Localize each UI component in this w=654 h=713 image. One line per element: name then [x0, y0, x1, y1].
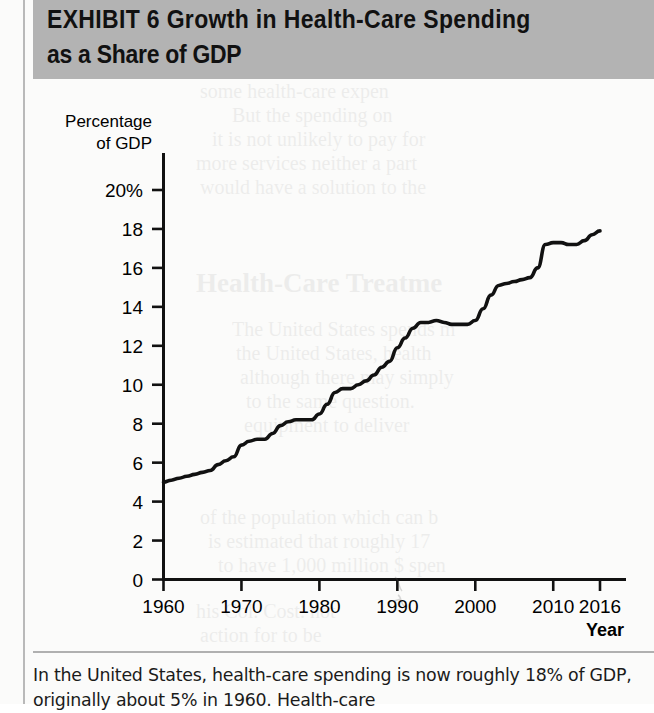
x-tick-label: 1960 — [142, 596, 184, 617]
y-tick-label: 6 — [132, 453, 143, 474]
line-chart: Percentage of GDP 02468101214161820% 196… — [0, 79, 654, 651]
y-tick-label: 16 — [122, 258, 143, 279]
y-tick-label: 12 — [122, 336, 143, 357]
x-axis-title: Year — [586, 620, 624, 640]
x-tick-label: 2016 — [579, 596, 621, 617]
caption-line-1: In the United States, health-care spendi… — [33, 665, 520, 685]
y-tick-label: 18 — [122, 219, 143, 240]
exhibit-title-line-2: as a Share of GDP — [47, 40, 241, 68]
y-axis-ticks: 02468101214161820% — [105, 180, 164, 591]
y-axis-title-line-2: of GDP — [96, 134, 152, 153]
y-tick-label: 14 — [122, 297, 144, 318]
x-tick-label: 2010 — [532, 596, 574, 617]
y-tick-label: 4 — [132, 492, 143, 513]
exhibit-banner: EXHIBIT 6 Growth in Health-Care Spending… — [33, 0, 654, 79]
y-tick-label: 20% — [105, 180, 143, 201]
x-tick-label: 1980 — [298, 596, 340, 617]
exhibit-title-line-1: EXHIBIT 6 Growth in Health-Care Spending — [47, 5, 531, 33]
health-care-spending-line — [164, 231, 601, 482]
y-tick-label: 0 — [132, 570, 143, 591]
x-axis-ticks: 1960197019801990200020102016 — [142, 580, 621, 618]
x-tick-label: 1970 — [220, 596, 262, 617]
y-axis-title-line-1: Percentage — [65, 112, 152, 131]
exhibit-title: EXHIBIT 6 Growth in Health-Care Spending… — [47, 2, 587, 72]
y-tick-label: 2 — [132, 531, 143, 552]
caption-divider — [33, 651, 654, 653]
y-tick-label: 10 — [122, 375, 143, 396]
x-tick-label: 2000 — [454, 596, 496, 617]
y-tick-label: 8 — [132, 414, 143, 435]
x-tick-label: 1990 — [376, 596, 418, 617]
chart-region: Percentage of GDP 02468101214161820% 196… — [0, 79, 654, 651]
exhibit-caption: In the United States, health-care spendi… — [33, 663, 649, 713]
